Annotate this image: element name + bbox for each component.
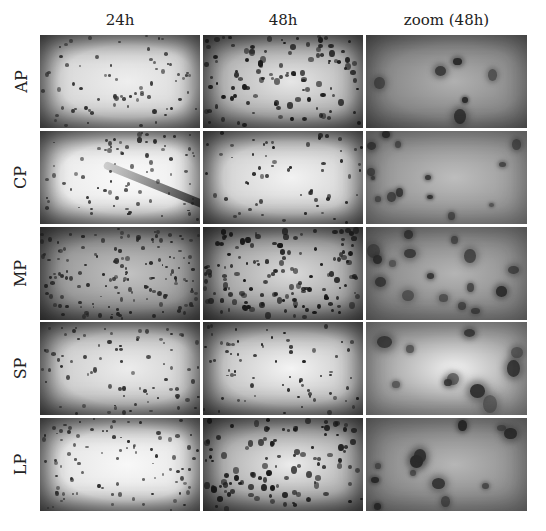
cell-dot xyxy=(324,420,327,424)
cell-dot xyxy=(265,174,269,178)
cell-dot xyxy=(65,276,68,279)
cell-dot xyxy=(75,327,77,329)
cell-dot xyxy=(121,317,123,320)
cell-dot xyxy=(125,267,127,270)
cell-dot xyxy=(239,359,242,362)
cell-dot xyxy=(283,412,285,414)
cell-dot xyxy=(357,121,361,125)
cell-dot xyxy=(230,264,233,268)
cell-dot xyxy=(254,420,259,426)
cell-dot xyxy=(66,259,69,262)
cell-dot xyxy=(188,486,191,489)
cell-dot xyxy=(208,121,211,124)
cell-dot xyxy=(192,280,195,282)
cell-dot xyxy=(127,440,129,442)
cell-dot xyxy=(183,504,186,506)
cell-dot xyxy=(66,270,69,273)
cell-dot xyxy=(289,345,293,348)
cell-dot xyxy=(188,212,191,215)
cell-dot xyxy=(260,174,264,178)
cell-dot xyxy=(327,410,331,415)
cell-dot xyxy=(324,36,328,39)
cell-dot xyxy=(270,485,275,491)
cell-dot xyxy=(152,241,154,242)
cell-dot xyxy=(187,210,189,212)
cell-dot xyxy=(337,463,342,469)
cell-dot xyxy=(92,303,94,305)
cell-dot xyxy=(187,91,190,94)
cell-dot xyxy=(360,146,363,148)
cell-dot xyxy=(162,311,165,313)
cell-dot xyxy=(224,235,228,238)
cell-dot xyxy=(45,349,49,353)
cell-dot xyxy=(108,190,112,195)
cell-dot xyxy=(147,47,151,51)
cell-dot xyxy=(169,63,172,67)
cell-dot xyxy=(231,44,234,47)
cell-dot xyxy=(155,234,158,237)
cell-dot xyxy=(404,230,413,239)
cell-dot xyxy=(317,304,321,309)
cell-dot xyxy=(104,328,106,330)
cell-dot xyxy=(146,298,148,300)
cell-dot xyxy=(157,397,160,399)
cell-dot xyxy=(206,269,212,275)
cell-dot xyxy=(156,230,160,234)
cell-dot xyxy=(269,73,273,76)
cell-dot xyxy=(237,121,240,125)
cell-dot xyxy=(256,260,259,262)
cell-dot xyxy=(224,197,228,200)
cell-dot xyxy=(170,509,172,511)
cell-dot xyxy=(321,169,323,172)
cell-dot xyxy=(239,291,245,296)
cell-dot xyxy=(145,141,148,144)
cell-dot xyxy=(276,484,279,488)
cell-dot xyxy=(276,106,280,110)
panel-cp-48h xyxy=(203,131,363,224)
cell-dot xyxy=(284,476,289,481)
cell-dot xyxy=(194,292,198,295)
cell-dot xyxy=(507,360,521,377)
cell-dot xyxy=(139,421,142,425)
cell-dot xyxy=(69,276,73,281)
cell-dot xyxy=(353,111,356,114)
cell-dot xyxy=(314,482,320,489)
cell-dot xyxy=(131,371,135,376)
cell-dot xyxy=(211,460,214,463)
cell-dot xyxy=(68,426,72,430)
cell-dot xyxy=(110,425,114,429)
cell-dot xyxy=(59,46,61,48)
cell-dot xyxy=(308,57,313,62)
cell-dot xyxy=(168,233,172,237)
cell-dot xyxy=(228,369,230,371)
cell-dot xyxy=(255,203,258,207)
row-label-lp: LP xyxy=(8,418,34,511)
cell-dot xyxy=(254,395,256,396)
cell-dot xyxy=(120,360,123,363)
cell-dot xyxy=(164,52,168,55)
cell-dot xyxy=(52,426,56,430)
cell-dot xyxy=(140,91,144,95)
cell-dot xyxy=(94,234,96,236)
cell-dot xyxy=(169,468,172,471)
cell-dot xyxy=(139,86,143,90)
cell-dot xyxy=(432,478,445,489)
cell-dot xyxy=(208,85,213,90)
cell-dot xyxy=(194,297,198,301)
cell-dot xyxy=(332,230,338,235)
cell-dot xyxy=(323,492,329,497)
cell-dot xyxy=(63,424,66,426)
cell-dot xyxy=(224,490,227,492)
cell-dot xyxy=(305,308,308,312)
cell-dot xyxy=(161,148,165,152)
cell-dot xyxy=(235,328,237,330)
cell-dot xyxy=(289,284,294,290)
cell-dot xyxy=(293,428,297,432)
cell-dot xyxy=(72,82,75,86)
cell-dot xyxy=(306,142,310,147)
cell-dot xyxy=(296,283,301,289)
cell-dot xyxy=(185,74,188,76)
cell-dot xyxy=(341,243,345,246)
cell-dot xyxy=(232,299,238,305)
cell-dot xyxy=(155,121,158,124)
